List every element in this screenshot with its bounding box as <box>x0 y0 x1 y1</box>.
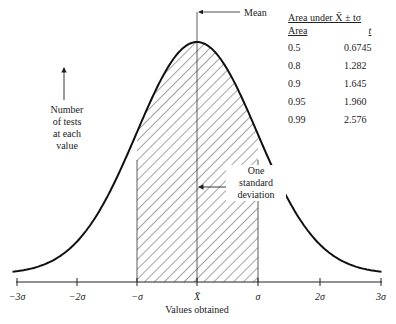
tick-label: −3σ <box>9 291 26 302</box>
table-row: 0.91.645 <box>288 75 396 93</box>
table-header: Area t <box>288 23 396 39</box>
sd-label: One standard deviation <box>226 165 286 201</box>
tick-label: 2σ <box>315 291 325 302</box>
mean-label: Mean <box>244 7 267 19</box>
tick-label: X̄ <box>194 291 200 302</box>
tick-label: −σ <box>131 291 143 302</box>
table-row: 0.951.960 <box>288 93 396 111</box>
table-title: Area under X̄ ± tσ <box>288 12 396 23</box>
col-t-header: t <box>344 23 396 39</box>
ylabel-line: of tests <box>44 116 90 128</box>
sd-line: standard <box>226 177 286 189</box>
tick-label: σ <box>256 291 261 302</box>
col-area-header: Area <box>288 23 328 39</box>
tick-label: −2σ <box>69 291 86 302</box>
ylabel-line: at each <box>44 128 90 140</box>
tick-label: 3σ <box>376 291 386 302</box>
sd-line: One <box>226 165 286 177</box>
ylabel-line: value <box>44 140 90 152</box>
x-axis-label: Values obtained <box>165 304 229 315</box>
table-row: 0.81.282 <box>288 57 396 75</box>
ylabel-line: Number <box>44 104 90 116</box>
table-row: 0.992.576 <box>288 111 396 129</box>
table-row: 0.50.6745 <box>288 39 396 57</box>
sd-line: deviation <box>226 189 286 201</box>
y-axis-label: Number of tests at each value <box>44 104 90 152</box>
area-table: Area under X̄ ± tσ Area t 0.50.6745 0.81… <box>288 12 396 129</box>
